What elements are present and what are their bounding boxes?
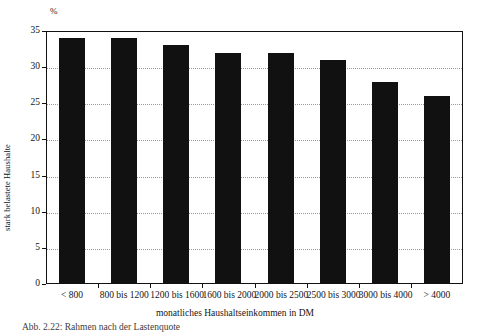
x-tick-label: 1200 bis 1600	[150, 290, 202, 300]
x-tick-mark	[202, 284, 203, 288]
y-tick-label: 15	[16, 171, 40, 181]
y-axis-title: stark belastete Haushalte	[2, 217, 12, 231]
x-tick-label: < 800	[46, 290, 98, 300]
x-tick-label: > 4000	[411, 290, 463, 300]
bar	[59, 38, 85, 284]
x-tick-label: 3000 bis 4000	[359, 290, 411, 300]
x-tick-mark	[307, 284, 308, 288]
x-tick-mark	[98, 284, 99, 288]
y-tick-label: 10	[16, 207, 40, 217]
figure-caption: Abb. 2.22: Rahmen nach der Lastenquote	[22, 322, 472, 333]
y-tick-mark	[42, 284, 46, 285]
x-axis-title: monatliches Haushaltseinkommen in DM	[0, 308, 470, 318]
bar	[111, 38, 137, 284]
x-tick-label: 1600 bis 2000	[202, 290, 254, 300]
x-tick-mark	[255, 284, 256, 288]
y-tick-label: 20	[16, 134, 40, 144]
bar	[215, 53, 241, 284]
bar	[163, 45, 189, 284]
bar	[372, 82, 398, 284]
y-tick-label: 25	[16, 98, 40, 108]
y-tick-label: 35	[16, 26, 40, 36]
x-tick-label: 800 bis 1200	[98, 290, 150, 300]
x-tick-mark	[150, 284, 151, 288]
bar	[424, 96, 450, 284]
bar	[320, 60, 346, 284]
x-tick-mark	[359, 284, 360, 288]
bars-group	[46, 31, 463, 284]
y-tick-label: 0	[16, 279, 40, 289]
y-axis-unit-label: %	[50, 6, 58, 16]
bar	[268, 53, 294, 284]
x-tick-mark	[411, 284, 412, 288]
x-tick-label: 2000 bis 2500	[255, 290, 307, 300]
x-tick-label: 2500 bis 3000	[307, 290, 359, 300]
y-tick-label: 30	[16, 62, 40, 72]
y-tick-label: 5	[16, 243, 40, 253]
